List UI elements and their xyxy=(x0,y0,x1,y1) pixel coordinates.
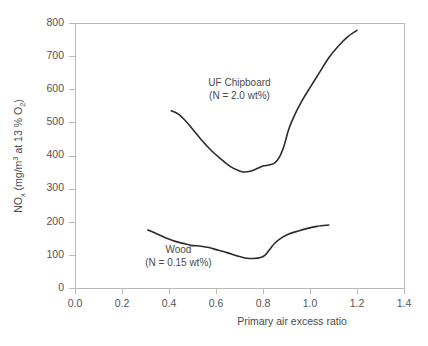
x-tick-label: 0.4 xyxy=(162,297,177,309)
ylabel-tail: at 13 % O xyxy=(12,107,24,157)
svg-text:NOx (mg/m3 at 13 % O2): NOx (mg/m3 at 13 % O2) xyxy=(11,99,27,213)
x-tick-label: 0.8 xyxy=(256,297,271,309)
y-tick-label: 0 xyxy=(58,281,64,293)
ylabel-close: ) xyxy=(12,99,24,103)
y-tick-label: 100 xyxy=(46,248,64,260)
y-tick-label: 700 xyxy=(46,49,64,61)
nox-line-chart: 0100200300400500600700800 0.00.20.40.60.… xyxy=(0,0,428,346)
y-axis-ticks: 0100200300400500600700800 xyxy=(46,16,75,293)
series-line-uf-chipboard xyxy=(171,30,357,172)
wood-annotation-line2: (N = 0.15 wt%) xyxy=(145,257,211,268)
y-axis-title: NOx (mg/m3 at 13 % O2) xyxy=(11,99,27,213)
wood-annotation-line1: Wood xyxy=(165,244,191,255)
y-tick-label: 800 xyxy=(46,16,64,28)
x-axis-ticks: 0.00.20.40.60.81.01.21.4 xyxy=(68,288,412,309)
annotation-uf-chipboard: UF Chipboard (N = 2.0 wt%) xyxy=(208,77,270,101)
uf-chipboard-annotation-line1: UF Chipboard xyxy=(208,77,270,88)
series-group xyxy=(148,30,357,258)
x-tick-label: 0.2 xyxy=(115,297,130,309)
y-tick-label: 400 xyxy=(46,148,64,160)
x-axis-title: Primary air excess ratio xyxy=(237,315,347,327)
annotation-wood: Wood (N = 0.15 wt%) xyxy=(145,244,211,268)
x-tick-label: 1.2 xyxy=(350,297,365,309)
chart-figure: 0100200300400500600700800 0.00.20.40.60.… xyxy=(0,0,428,346)
x-tick-label: 0.0 xyxy=(68,297,83,309)
uf-chipboard-annotation-line2: (N = 2.0 wt%) xyxy=(209,90,270,101)
ylabel-mid: (mg/m xyxy=(12,160,24,193)
plot-frame xyxy=(76,24,405,289)
y-tick-label: 600 xyxy=(46,82,64,94)
x-tick-label: 0.6 xyxy=(209,297,224,309)
y-tick-label: 200 xyxy=(46,215,64,227)
ylabel-lead: NO xyxy=(12,197,24,213)
y-tick-label: 300 xyxy=(46,181,64,193)
y-tick-label: 500 xyxy=(46,115,64,127)
x-tick-label: 1.0 xyxy=(303,297,318,309)
x-tick-label: 1.4 xyxy=(397,297,412,309)
